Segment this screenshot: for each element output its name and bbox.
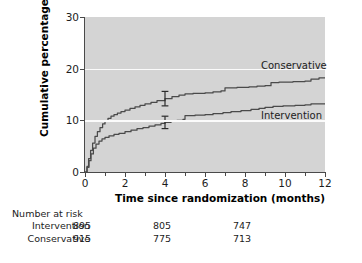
x-tick-label-6: 6 [190,178,220,189]
x-tick-label-2: 2 [110,178,140,189]
curve-conservative [85,77,325,172]
risk-value: 915 [73,233,107,246]
x-minor-tick-7 [225,173,226,176]
y-tick-30 [80,17,84,18]
x-tick-label-10: 10 [270,178,300,189]
cumulative-incidence-chart: 0102030024681012 Cumulative percentage T… [0,0,362,263]
x-tick-label-8: 8 [230,178,260,189]
risk-value: 805 [153,220,187,233]
x-axis-title: Time since randomization (months) [85,192,355,204]
risk-table-title: Number at risk [12,208,83,221]
x-tick-label-4: 4 [150,178,180,189]
x-minor-tick-3 [145,173,146,176]
x-tick-label-12: 12 [310,178,340,189]
x-minor-tick-11 [305,173,306,176]
risk-value: 747 [233,220,267,233]
y-tick-20 [80,69,84,70]
risk-value: 775 [153,233,187,246]
plot-area [85,17,325,172]
series-label-conservative: Conservative [261,61,327,71]
series-label-intervention: Intervention [261,111,322,121]
y-axis-line [84,17,85,173]
y-axis-title: Cumulative percentage [38,0,50,148]
risk-value: 713 [233,233,267,246]
x-minor-tick-5 [185,173,186,176]
x-minor-tick-9 [265,173,266,176]
y-tick-10 [80,120,84,121]
x-minor-tick-1 [105,173,106,176]
curves-layer [85,17,325,172]
y-tick-label-0: 0 [19,167,79,178]
x-tick-label-0: 0 [70,178,100,189]
risk-value: 895 [73,220,107,233]
y-tick-0 [80,172,84,173]
